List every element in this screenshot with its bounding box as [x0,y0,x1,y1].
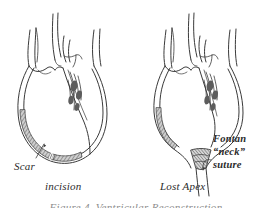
label-scar: Scar [14,160,35,172]
figure-background [0,0,272,208]
caption-lost-apex: Lost Apex [160,180,205,192]
label-fontan: Fontan [213,133,246,144]
bottom-cut-caption: Figure 4. Ventricular Reconstruction [0,201,272,208]
cardiac-figure [0,0,272,208]
label-neck: “neck” [213,146,245,157]
caption-incision: incision [45,180,81,192]
label-suture: suture [213,159,242,170]
